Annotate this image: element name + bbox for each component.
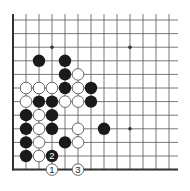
black-stone-2: 2 [46,150,58,162]
move-number-label: 1 [49,164,54,175]
move-number-label: 2 [49,150,54,161]
white-stone [46,82,58,94]
white-stone [72,137,84,149]
black-stone [20,123,32,135]
move-number-label: 3 [75,164,80,175]
board-svg: 213 [0,0,190,191]
star-point-icon [128,45,132,49]
black-stone [46,95,58,107]
white-stone [59,96,71,108]
white-stone [72,96,84,108]
black-stone [85,95,97,107]
white-stone [72,123,84,135]
white-stone [33,150,45,162]
white-stone [20,96,32,108]
go-board-diagram: 213 [0,0,190,191]
black-stone [20,150,32,162]
white-stone-1: 1 [46,164,58,176]
white-stone [33,109,45,121]
black-stone [46,109,58,121]
black-stone [85,82,97,94]
star-point-icon [50,45,54,49]
black-stone [59,136,71,148]
black-stone [20,136,32,148]
white-stone [72,82,84,94]
black-stone [33,95,45,107]
white-stone-3: 3 [72,164,84,176]
black-stone [33,55,45,67]
black-stone [59,68,71,80]
black-stone [98,123,110,135]
white-stone [33,123,45,135]
star-point-icon [128,127,132,131]
white-stone [33,137,45,149]
white-stone [33,82,45,94]
black-stone [59,55,71,67]
black-stone [20,109,32,121]
black-stone [59,82,71,94]
black-stone [46,123,58,135]
white-stone [20,82,32,94]
white-stone [72,69,84,81]
